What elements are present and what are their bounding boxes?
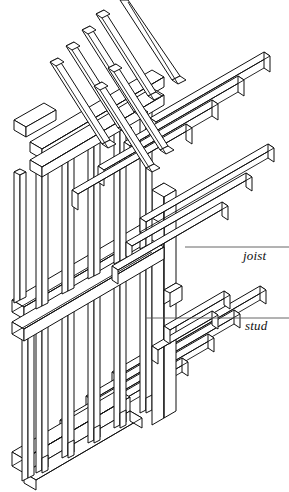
stud: [14, 169, 26, 303]
timber-frame-figure: .ln { fill:#ffffff; stroke:#111111; stro…: [0, 0, 289, 492]
stud: [36, 157, 48, 309]
annotation-label-stud: stud: [245, 319, 267, 332]
stud: [62, 142, 74, 294]
stud: [88, 127, 100, 279]
frame-drawing: .ln { fill:#ffffff; stroke:#111111; stro…: [0, 0, 289, 492]
stud: [114, 112, 126, 264]
annotation-label-joist: joist: [243, 249, 266, 262]
